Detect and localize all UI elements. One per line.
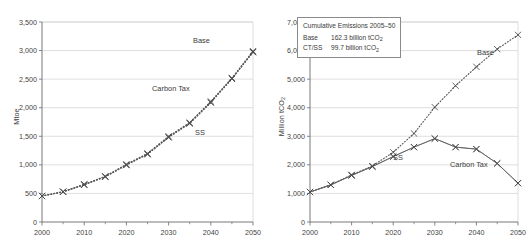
svg-text:2040: 2040 <box>468 228 484 237</box>
legend-row: Base 162.3 billion tCO2 <box>303 33 395 44</box>
svg-text:2020: 2020 <box>385 228 401 237</box>
svg-text:2,500: 2,500 <box>19 75 37 84</box>
carbon-tax-series-label: Carbon Tax <box>152 84 190 93</box>
two-panel-chart-figure: 05001,0001,5002,0002,5003,0003,500200020… <box>0 0 530 244</box>
svg-text:2050: 2050 <box>245 228 261 237</box>
svg-text:2000: 2000 <box>302 228 318 237</box>
svg-text:1,000: 1,000 <box>287 189 305 198</box>
legend-value: 162.3 billion tCO2 <box>331 33 383 44</box>
svg-text:2,000: 2,000 <box>287 160 305 169</box>
svg-text:3,500: 3,500 <box>19 18 37 27</box>
legend-value-subscript: 2 <box>376 47 379 53</box>
svg-text:3,000: 3,000 <box>287 132 305 141</box>
svg-text:1,000: 1,000 <box>19 160 37 169</box>
svg-text:2020: 2020 <box>118 228 134 237</box>
svg-text:4,000: 4,000 <box>287 103 305 112</box>
legend-title: Cumulative Emissions 2005–50 <box>303 21 395 32</box>
svg-text:2040: 2040 <box>203 228 219 237</box>
primary-energy-plot: 05001,0001,5002,0002,5003,0003,500200020… <box>0 0 265 244</box>
svg-text:0: 0 <box>301 218 305 227</box>
y-axis-title-subscript: 2 <box>280 97 286 100</box>
ss-series-label: SS <box>393 153 403 162</box>
legend-value-text: 99.7 billion tCO <box>331 44 376 51</box>
legend-value: 99.7 billion tCO2 <box>331 43 379 54</box>
svg-text:2010: 2010 <box>76 228 92 237</box>
legend-value-text: 162.3 billion tCO <box>331 34 380 41</box>
svg-text:2000: 2000 <box>34 228 50 237</box>
svg-text:5,000: 5,000 <box>287 75 305 84</box>
carbon-tax-series-label: Carbon Tax <box>450 160 488 169</box>
ss-series-label: SS <box>195 128 205 137</box>
chart-panel-primary-energy: 05001,0001,5002,0002,5003,0003,500200020… <box>0 0 265 244</box>
svg-text:0: 0 <box>33 218 37 227</box>
legend-key: CT/SS <box>303 43 331 54</box>
svg-text:500: 500 <box>25 189 37 198</box>
y-axis-title: Mtoe <box>12 94 21 140</box>
svg-text:3,000: 3,000 <box>19 46 37 55</box>
legend-row: CT/SS 99.7 billion tCO2 <box>303 43 395 54</box>
y-axis-title: Million tCO2 <box>277 84 286 150</box>
legend-key: Base <box>303 33 331 44</box>
legend-value-subscript: 2 <box>380 36 383 42</box>
cumulative-emissions-legend: Cumulative Emissions 2005–50 Base 162.3 … <box>297 17 401 58</box>
base-series-label: Base <box>193 36 210 45</box>
svg-text:2050: 2050 <box>510 228 526 237</box>
svg-text:1,500: 1,500 <box>19 132 37 141</box>
svg-text:2030: 2030 <box>161 228 177 237</box>
base-series-label: Base <box>477 48 494 57</box>
svg-text:2030: 2030 <box>427 228 443 237</box>
svg-text:2,000: 2,000 <box>19 103 37 112</box>
chart-panel-emissions: 01,0002,0003,0004,0005,0006,0007,0002000… <box>265 0 530 244</box>
svg-text:2010: 2010 <box>344 228 360 237</box>
